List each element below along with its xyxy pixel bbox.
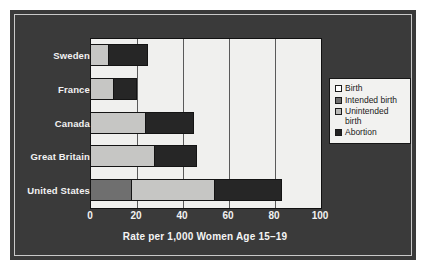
legend-swatch-birth-icon	[335, 85, 342, 92]
legend-label: Unintended birth	[345, 107, 406, 126]
x-axis-title: Rate per 1,000 Women Age 15–19	[0, 231, 426, 242]
legend-label: Intended birth	[345, 96, 397, 106]
legend-swatch-abortion-icon	[335, 129, 342, 136]
bar-segment	[154, 145, 196, 167]
x-tick-label-20: 20	[116, 210, 156, 221]
bar-segment	[90, 112, 146, 134]
legend-item[interactable]: Unintended birth	[335, 107, 406, 126]
legend-label: Birth	[345, 84, 362, 94]
category-label: United States	[0, 185, 90, 196]
chart-legend: BirthIntended birthUnintended birthAbort…	[329, 78, 411, 144]
bar-segment	[90, 145, 155, 167]
category-label: Great Britain	[0, 151, 90, 162]
bar-segment	[90, 179, 132, 201]
category-label: Canada	[0, 118, 90, 129]
legend-label: Abortion	[345, 128, 377, 138]
category-label: France	[0, 84, 90, 95]
x-tick-label-100: 100	[300, 210, 340, 221]
category-label: Sweden	[0, 50, 90, 61]
legend-swatch-intended-birth-icon	[335, 97, 342, 104]
bar-row	[90, 112, 320, 134]
bar-row	[90, 179, 320, 201]
legend-item[interactable]: Birth	[335, 84, 406, 94]
x-axis-title-text: Rate per 1,000 Women Age 15–19	[123, 231, 287, 242]
bar-segment	[90, 78, 114, 100]
legend-item[interactable]: Intended birth	[335, 96, 406, 106]
bar-segment	[90, 44, 109, 66]
legend-item[interactable]: Abortion	[335, 128, 406, 138]
bar-segment	[131, 179, 215, 201]
bar-segment	[113, 78, 137, 100]
bar-row	[90, 78, 320, 100]
bar-row	[90, 145, 320, 167]
figure: Rate per 1,000 Women Age 15–19 BirthInte…	[0, 0, 426, 270]
x-tick-label-40: 40	[162, 210, 202, 221]
legend-swatch-unintended-birth-icon	[335, 108, 342, 115]
x-tick-label-0: 0	[70, 210, 110, 221]
x-tick-label-80: 80	[254, 210, 294, 221]
bar-segment	[145, 112, 194, 134]
x-tick-label-60: 60	[208, 210, 248, 221]
bar-row	[90, 44, 320, 66]
bar-segment	[108, 44, 148, 66]
bar-segment	[214, 179, 282, 201]
